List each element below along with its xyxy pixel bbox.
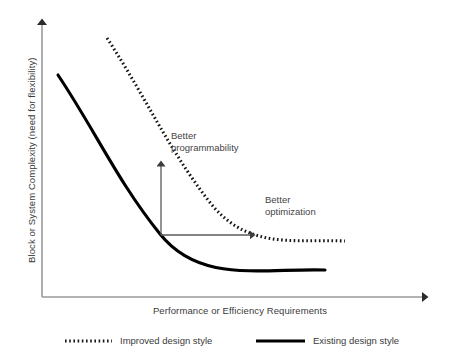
annotation-programmability-line2: programmability [171, 142, 239, 154]
x-axis-title: Performance or Efficiency Requirements [104, 306, 376, 316]
curve-existing-design-style [58, 75, 325, 271]
annotation-optimization-line2: optimization [265, 206, 316, 218]
annotation-optimization-line1: Better [265, 194, 316, 206]
y-axis-title: Block or System Complexity (need for fle… [27, 27, 37, 293]
legend-label-existing-design-style: Existing design style [313, 335, 399, 346]
legend-label-improved-design-style: Improved design style [120, 335, 212, 346]
annotation-programmability-line1: Better [171, 130, 239, 142]
annotation-better-programmability: Better programmability [171, 130, 239, 153]
figure-canvas: Block or System Complexity (need for fle… [0, 0, 452, 361]
annotation-better-optimization: Better optimization [265, 194, 316, 217]
